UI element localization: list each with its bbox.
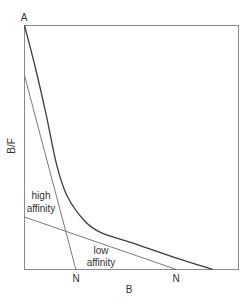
low-affinity-label-line1: low (93, 245, 109, 256)
high-affinity-line (25, 76, 76, 270)
low-affinity-n-label: N (172, 273, 179, 284)
scatchard-diagram: A B/F B N N high affinity low affinity (0, 0, 251, 305)
low-affinity-label-line2: affinity (87, 257, 116, 268)
series-layer (25, 26, 213, 270)
high-affinity-label-line1: high (32, 190, 51, 201)
total-binding-curve (25, 26, 213, 270)
x-axis-label: B (126, 284, 133, 295)
high-affinity-n-label: N (72, 273, 79, 284)
y-axis-label: B/F (6, 138, 17, 154)
origin-label-a: A (21, 12, 28, 23)
high-affinity-label-line2: affinity (27, 203, 56, 214)
plot-frame (25, 26, 239, 270)
